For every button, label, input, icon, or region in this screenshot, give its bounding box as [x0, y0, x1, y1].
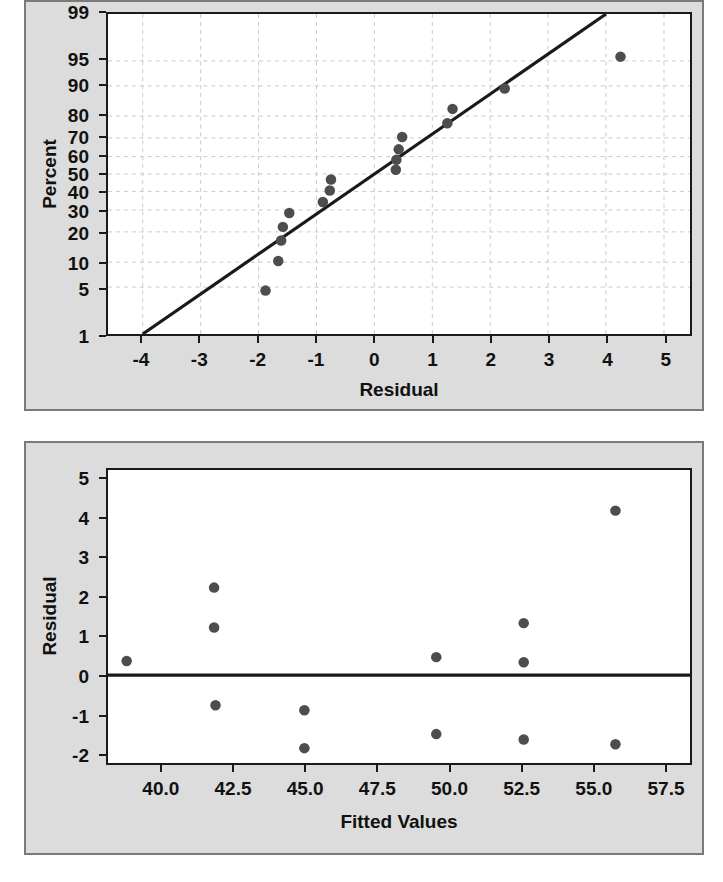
x-tick-label: 40.0	[142, 779, 179, 798]
x-tick-mark	[606, 336, 608, 343]
y-tick-mark	[99, 556, 106, 558]
y-tick-label: 20	[68, 223, 89, 242]
x-axis-title-residual: Residual	[359, 379, 438, 401]
x-tick-label: 47.5	[359, 779, 396, 798]
y-tick-mark	[99, 596, 106, 598]
y-tick-mark	[99, 210, 106, 212]
figure-page: 151020304050607080909599-4-3-2-1012345 R…	[0, 0, 723, 882]
x-tick-label: 0	[369, 350, 380, 369]
x-tick-mark	[548, 336, 550, 343]
y-axis-title-percent: Percent	[39, 139, 61, 209]
x-tick-mark	[198, 336, 200, 343]
x-tick-mark	[315, 336, 317, 343]
y-tick-label: -2	[72, 746, 89, 765]
x-tick-mark	[521, 765, 523, 772]
x-tick-label: 2	[486, 350, 497, 369]
x-tick-mark	[376, 765, 378, 772]
y-tick-mark	[99, 114, 106, 116]
y-tick-mark	[99, 262, 106, 264]
y-tick-mark	[99, 84, 106, 86]
y-tick-label: 99	[68, 3, 89, 22]
residuals-versus-fits-canvas	[108, 470, 690, 763]
y-tick-mark	[99, 58, 106, 60]
x-tick-mark	[593, 765, 595, 772]
y-tick-label: 3	[78, 548, 89, 567]
residuals-versus-fits-panel: 543210-1-240.042.545.047.550.052.555.057…	[24, 441, 704, 855]
y-tick-label: 5	[78, 279, 89, 298]
x-tick-label: -1	[307, 350, 324, 369]
x-tick-mark	[257, 336, 259, 343]
y-axis-title-residual: Residual	[39, 576, 61, 655]
normal-probability-plot-frame	[106, 12, 692, 336]
y-tick-mark	[99, 715, 106, 717]
x-tick-mark	[160, 765, 162, 772]
y-tick-label: 30	[68, 201, 89, 220]
y-tick-label: 90	[68, 75, 89, 94]
y-tick-label: 2	[78, 587, 89, 606]
x-tick-label: 45.0	[287, 779, 324, 798]
y-tick-mark	[99, 635, 106, 637]
y-tick-label: 1	[78, 327, 89, 346]
y-tick-label: 80	[68, 106, 89, 125]
x-tick-label: 3	[544, 350, 555, 369]
x-axis-title-fitted-values: Fitted Values	[340, 811, 457, 833]
y-tick-label: 5	[78, 468, 89, 487]
y-tick-label: -1	[72, 706, 89, 725]
y-tick-mark	[99, 754, 106, 756]
x-tick-label: 57.5	[648, 779, 685, 798]
x-tick-mark	[432, 336, 434, 343]
y-tick-mark	[99, 136, 106, 138]
y-tick-mark	[99, 232, 106, 234]
x-tick-label: 50.0	[431, 779, 468, 798]
normal-probability-plot-panel: 151020304050607080909599-4-3-2-1012345 R…	[24, 0, 704, 411]
normal-probability-plot-canvas	[108, 14, 690, 334]
x-tick-label: 52.5	[503, 779, 540, 798]
y-tick-label: 70	[68, 128, 89, 147]
x-tick-mark	[373, 336, 375, 343]
y-tick-mark	[99, 517, 106, 519]
y-tick-mark	[99, 191, 106, 193]
y-tick-label: 0	[78, 666, 89, 685]
y-tick-label: 95	[68, 50, 89, 69]
y-tick-label: 50	[68, 165, 89, 184]
x-tick-mark	[490, 336, 492, 343]
x-tick-label: -4	[133, 350, 150, 369]
x-tick-label: 1	[427, 350, 438, 369]
y-tick-mark	[99, 173, 106, 175]
y-tick-label: 4	[78, 508, 89, 527]
y-tick-mark	[99, 288, 106, 290]
y-tick-label: 60	[68, 147, 89, 166]
x-tick-mark	[304, 765, 306, 772]
x-tick-mark	[232, 765, 234, 772]
y-tick-mark	[99, 675, 106, 677]
x-tick-mark	[665, 765, 667, 772]
x-tick-mark	[449, 765, 451, 772]
y-tick-label: 10	[68, 254, 89, 273]
x-tick-label: -2	[249, 350, 266, 369]
y-tick-label: 40	[68, 182, 89, 201]
y-tick-mark	[99, 155, 106, 157]
x-tick-label: 4	[602, 350, 613, 369]
x-tick-mark	[140, 336, 142, 343]
y-tick-label: 1	[78, 627, 89, 646]
y-tick-mark	[99, 335, 106, 337]
x-tick-label: 42.5	[215, 779, 252, 798]
y-tick-mark	[99, 11, 106, 13]
y-tick-mark	[99, 477, 106, 479]
x-tick-label: 5	[660, 350, 671, 369]
x-tick-label: -3	[191, 350, 208, 369]
x-tick-label: 55.0	[575, 779, 612, 798]
residuals-versus-fits-frame	[106, 468, 692, 765]
x-tick-mark	[665, 336, 667, 343]
